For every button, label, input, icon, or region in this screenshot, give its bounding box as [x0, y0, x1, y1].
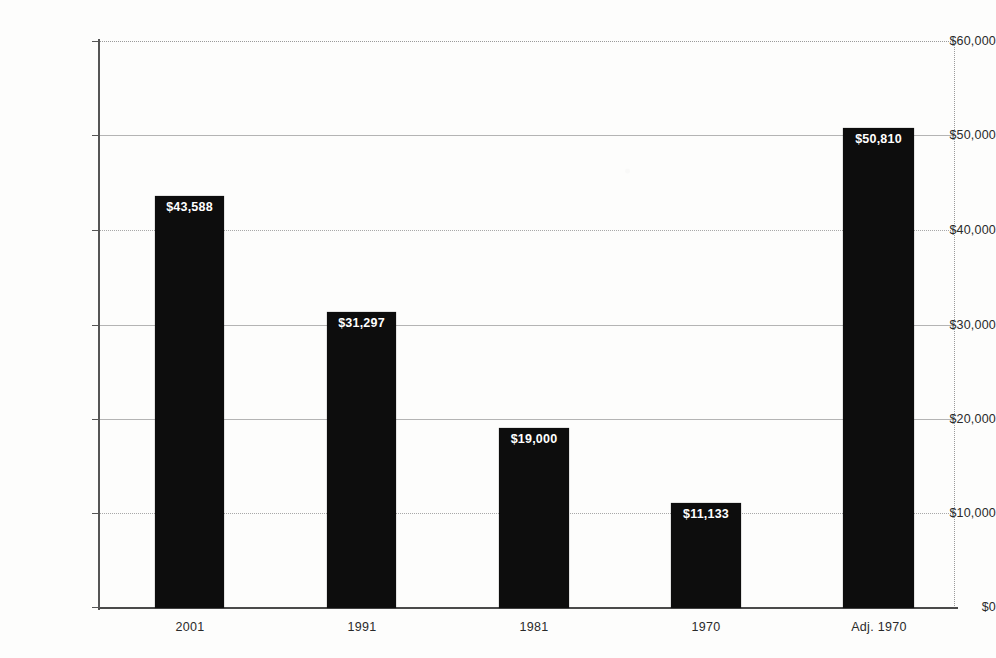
bar-value-2001: $43,588: [155, 200, 224, 214]
bar-adj-1970[interactable]: [843, 128, 914, 608]
bar-value-1970: $11,133: [671, 507, 741, 521]
y-tick-10000: [92, 513, 100, 514]
x-axis-label-adj-1970: Adj. 1970: [833, 620, 925, 634]
bar-value-adj-1970: $50,810: [843, 132, 914, 146]
bar-value-1981: $19,000: [499, 432, 569, 446]
y-tick-30000: [92, 325, 100, 326]
y-tick-20000: [92, 419, 100, 420]
y-tick-0: [92, 607, 100, 608]
y-tick-60000: [92, 41, 100, 42]
y-axis-label-40000: $40,000: [910, 223, 996, 237]
y-axis-label-50000: $50,000: [910, 128, 996, 142]
x-axis-label-1981: 1981: [489, 620, 579, 634]
y-axis-label-20000: $20,000: [910, 412, 996, 426]
bar-chart: $60,000 $50,000 $40,000 $30,000 $20,000 …: [0, 0, 996, 658]
x-axis-label-1970: 1970: [661, 620, 751, 634]
bar-1981[interactable]: [499, 428, 569, 608]
y-tick-50000: [92, 135, 100, 136]
y-axis-label-10000: $10,000: [910, 506, 996, 520]
y-axis-label-0: $0: [910, 600, 996, 614]
y-axis-label-60000: $60,000: [910, 34, 996, 48]
x-axis-label-2001: 2001: [145, 620, 235, 634]
bar-1991[interactable]: [327, 312, 396, 608]
x-axis-label-1991: 1991: [317, 620, 407, 634]
bar-2001[interactable]: [155, 196, 224, 608]
bar-value-1991: $31,297: [327, 316, 396, 330]
y-tick-40000: [92, 230, 100, 231]
y-axis-label-30000: $30,000: [910, 318, 996, 332]
